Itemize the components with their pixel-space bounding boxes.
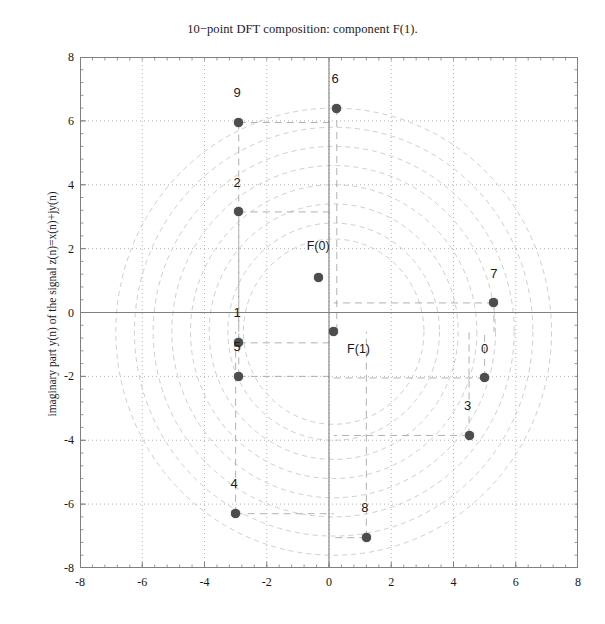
data-point-8[interactable] [362,533,371,542]
y-tick-label: 4 [50,177,74,192]
y-tick-label: -2 [50,369,74,384]
x-tick-label: -6 [137,575,147,590]
x-tick-label: 6 [513,575,519,590]
data-point-label-6: 6 [332,71,339,86]
y-tick-label: -8 [50,561,74,576]
data-point-label-0: 0 [481,341,488,356]
y-tick-label: 8 [50,50,74,65]
data-point-label-4: 4 [230,476,237,491]
data-point-label-5: 5 [234,339,241,354]
x-tick-label: 4 [451,575,457,590]
y-axis-label: imaginary part y(n) of the signal z(n)=x… [46,94,58,514]
y-tick-label: -6 [50,497,74,512]
x-tick-label: -2 [262,575,272,590]
x-tick-label: -4 [200,575,210,590]
plot-area: 0123456789F(0)F(1) [80,57,578,568]
x-tick-label: 0 [326,575,332,590]
data-point-3[interactable] [465,431,474,440]
x-tick-label: 2 [388,575,394,590]
plot-canvas [80,57,578,568]
y-tick-label: 6 [50,113,74,128]
x-tick-label: -8 [75,575,85,590]
x-tick-label: 8 [575,575,581,590]
data-point-label-7: 7 [490,266,497,281]
chart-title: 10−point DFT composition: component F(1)… [0,22,605,37]
component-label-F1: F(1) [347,342,370,356]
data-point-label-8: 8 [361,500,368,515]
y-tick-label: 2 [50,241,74,256]
data-point-label-1: 1 [234,305,241,320]
data-point-label-3: 3 [464,398,471,413]
data-point-label-9: 9 [234,85,241,100]
component-label-F0: F(0) [307,239,330,253]
data-point-6[interactable] [332,104,341,113]
y-tick-label: -4 [50,433,74,448]
y-tick-label: 0 [50,305,74,320]
chart-root: 10−point DFT composition: component F(1)… [0,0,605,624]
component-point-F0[interactable] [314,273,323,282]
data-point-label-2: 2 [234,175,241,190]
